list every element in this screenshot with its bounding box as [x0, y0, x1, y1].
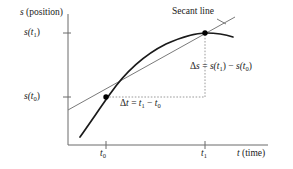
- point-t1: [202, 30, 207, 35]
- delta-s-term1-var: s(t: [210, 61, 220, 71]
- delta-s-term2-close: ): [249, 61, 252, 71]
- delta-t-minus: −: [145, 98, 155, 108]
- delta-t-equals: =: [129, 98, 139, 108]
- delta-s-annotation: Δs = s(t1) − s(t0): [190, 62, 252, 72]
- x-tick-label-t0: t0: [100, 149, 106, 159]
- y-tick-label-s-t1: s(t1): [24, 28, 40, 38]
- delta-s-term2-var: s(t: [236, 61, 246, 71]
- y-axis-label-paren: (position): [24, 7, 63, 17]
- position-curve: [80, 33, 233, 137]
- y-tick-label-s-t0-var: s(t: [24, 91, 34, 101]
- x-tick-label-t1: t1: [201, 149, 207, 159]
- delta-t-term2-sub: 0: [157, 102, 160, 109]
- y-tick-label-s-t0-close: ): [37, 91, 40, 101]
- y-tick-label-s-t0: s(t0): [24, 92, 40, 102]
- x-axis-label-paren: (time): [240, 148, 266, 158]
- x-axis-label: t (time): [237, 149, 265, 159]
- point-t0: [103, 94, 108, 99]
- secant-label-leader: [217, 19, 226, 24]
- secant-line-figure: s (position) t (time) s(t1) s(t0) t0 t1 …: [0, 0, 293, 169]
- x-tick-label-t1-sub: 1: [204, 152, 207, 159]
- y-tick-label-s-t1-var: s(t: [24, 27, 34, 37]
- y-tick-label-s-t1-close: ): [37, 27, 40, 37]
- x-tick-label-t0-sub: 0: [103, 152, 106, 159]
- figure-canvas: [0, 0, 293, 169]
- delta-s-minus: −: [226, 61, 236, 71]
- delta-t-annotation: Δt = t1 − t0: [120, 99, 161, 109]
- y-axis-label: s (position): [20, 8, 63, 18]
- delta-s-equals: =: [200, 61, 210, 71]
- secant-line-label: Secant line: [172, 7, 214, 17]
